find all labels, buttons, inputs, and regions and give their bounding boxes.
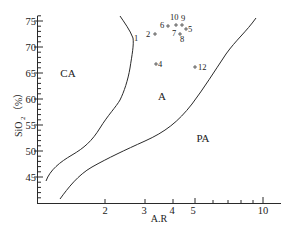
- point-6: 6: [160, 20, 170, 30]
- x-tick-label-5: 5: [190, 205, 195, 216]
- point-label-2: 2: [146, 29, 150, 39]
- point-4: 4: [154, 59, 163, 69]
- x-axis: [37, 197, 281, 204]
- ar-sio2-diagram: 45 50 55 60 65 70 75 SiO 2 （%） 2 3 4 5 1…: [0, 0, 301, 234]
- point-7: 7: [172, 23, 178, 38]
- y-tick-75: 75: [26, 16, 37, 27]
- region-label-pa: PA: [196, 132, 209, 144]
- y-tick-60: 60: [26, 94, 37, 105]
- point-label-8: 8: [180, 34, 184, 44]
- x-tick-label-10: 10: [258, 205, 269, 216]
- region-label-ca: CA: [60, 67, 75, 79]
- y-label-unit: （%）: [13, 88, 24, 116]
- y-tick-50: 50: [26, 146, 37, 157]
- point-10: 10: [170, 12, 179, 22]
- point-label-10: 10: [170, 12, 179, 22]
- point-label-6: 6: [160, 20, 164, 30]
- x-tick-label-3: 3: [141, 205, 146, 216]
- y-tick-70: 70: [26, 42, 37, 53]
- point-8: 8: [178, 32, 184, 44]
- point-5: 5: [184, 24, 192, 34]
- point-9: 9: [180, 13, 185, 27]
- y-minor-ticks: [38, 16, 42, 198]
- point-label-9: 9: [181, 13, 185, 23]
- y-tick-labels: 45 50 55 60 65 70 75: [26, 16, 37, 183]
- x-tick-label-2: 2: [102, 205, 107, 216]
- point-label-5: 5: [188, 24, 192, 34]
- sample-points: 1 2 4 5 6 7 8 9 10: [134, 12, 207, 72]
- point-label-4: 4: [158, 59, 163, 69]
- point-label-12: 12: [198, 62, 207, 72]
- y-label-sio: SiO: [13, 121, 24, 137]
- y-tick-45: 45: [26, 172, 37, 183]
- point-label-1: 1: [134, 33, 138, 43]
- y-tick-55: 55: [26, 120, 37, 131]
- x-axis-label: A.R: [151, 213, 168, 224]
- x-tick-label-4: 4: [169, 205, 175, 216]
- point-label-7: 7: [172, 28, 176, 38]
- x-tick-labels: 2 3 4 5 10: [102, 205, 268, 216]
- region-label-a: A: [158, 90, 166, 102]
- point-12: 12: [193, 62, 207, 72]
- y-tick-65: 65: [26, 68, 37, 79]
- point-2: 2: [146, 29, 157, 39]
- ca-a-boundary-curve: [46, 16, 133, 181]
- a-pa-boundary-curve: [60, 18, 256, 199]
